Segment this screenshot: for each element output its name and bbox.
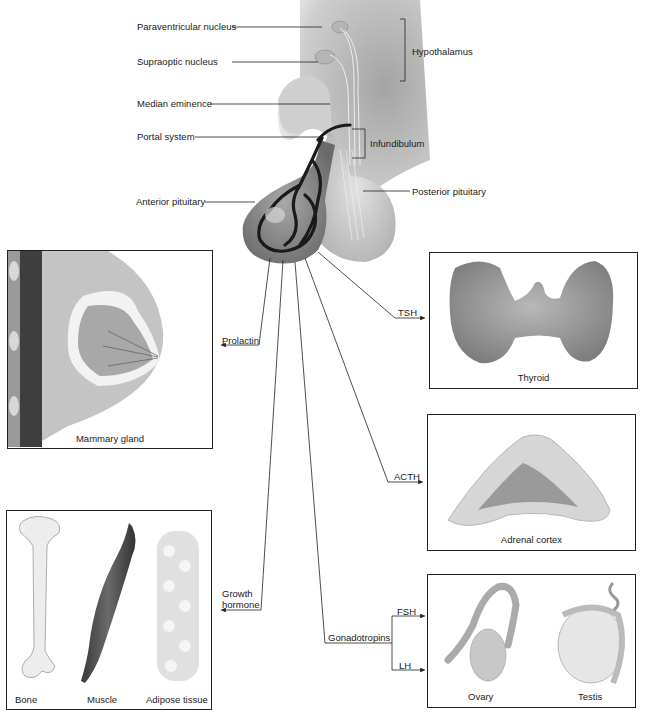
label-hypothalamus: Hypothalamus [412,46,473,57]
adrenal-cortex-panel: Adrenal cortex [427,414,636,551]
label-supraoptic-nucleus: Supraoptic nucleus [137,56,218,67]
label-growth-hormone-line2: hormone [222,599,260,610]
label-infundibulum: Infundibulum [370,138,424,149]
label-growth-hormone-line1: Growth [222,588,253,599]
label-gonadotropins: Gonadotropins [328,632,390,643]
caption-bone: Bone [15,694,37,705]
label-lh: LH [399,660,411,671]
bone-illustration [19,516,59,677]
growth-hormone-connector [221,260,283,610]
ovary-illustration [448,586,516,681]
label-posterior-pituitary: Posterior pituitary [412,186,486,197]
prolactin-connector [221,258,270,345]
caption-adipose-tissue: Adipose tissue [146,694,208,705]
label-fsh: FSH [397,606,416,617]
label-paraventricular-nucleus: Paraventricular nucleus [137,21,236,32]
caption-adrenal-cortex: Adrenal cortex [428,534,635,545]
label-prolactin: Prolactin [222,335,259,346]
gonads-panel: Ovary Testis [427,574,636,708]
mammary-gland-illustration [8,251,211,447]
label-acth: ACTH [394,471,420,482]
caption-mammary-gland: Mammary gland [8,433,212,444]
adrenal-cortex-illustration [428,415,634,549]
label-tsh: TSH [398,307,417,318]
caption-ovary: Ovary [468,691,493,702]
adipose-illustration [157,531,199,681]
label-anterior-pituitary: Anterior pituitary [136,196,205,207]
mammary-gland-panel: Mammary gland [7,250,213,449]
caption-testis: Testis [578,691,602,702]
caption-thyroid: Thyroid [430,372,637,383]
caption-muscle: Muscle [87,694,117,705]
label-portal-system: Portal system [137,131,195,142]
testis-illustration [558,583,624,683]
muscle-illustration [81,523,136,683]
gonads-illustration [428,575,634,706]
thyroid-panel: Thyroid [429,252,638,389]
thyroid-illustration [430,253,636,387]
label-median-eminence: Median eminence [137,98,212,109]
growth-targets-illustration [7,511,210,708]
growth-hormone-targets-panel: Bone Muscle Adipose tissue [6,510,212,710]
